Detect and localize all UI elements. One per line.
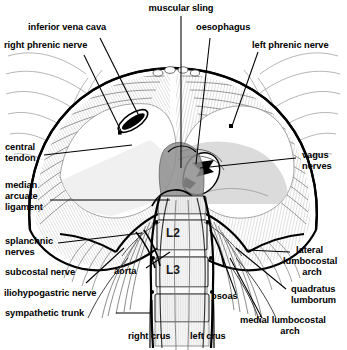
label-sympathetic-trunk: sympathetic trunk bbox=[5, 308, 84, 319]
label-iliohypogastric-nerve: iliohypogastric nerve bbox=[4, 288, 96, 299]
label-medial-lumbocostal-arch-line1: medial lumbocostal bbox=[240, 315, 326, 326]
label-central-tendon-line1: central bbox=[5, 142, 35, 153]
label-aorta: aorta bbox=[114, 266, 136, 277]
label-lateral-lumbocostal-arch-line2: lumbocostal bbox=[283, 256, 337, 267]
label-right-phrenic-nerve: right phrenic nerve bbox=[4, 40, 87, 51]
label-lateral-lumbocostal-arch-line1: lateral bbox=[296, 245, 323, 256]
label-psoas: psoas bbox=[211, 291, 238, 302]
label-splanchnic-nerves-line2: nerves bbox=[5, 247, 35, 258]
label-vertebra-l3: L3 bbox=[166, 263, 180, 277]
label-median-arcuate-ligament-line3: ligament bbox=[5, 202, 43, 213]
label-left-crus: left crus bbox=[190, 331, 226, 342]
label-right-crus: right crus bbox=[128, 331, 170, 342]
label-vertebra-l2: L2 bbox=[166, 226, 180, 240]
label-splanchnic-nerves-line1: splanchnic bbox=[5, 236, 53, 247]
label-median-arcuate-ligament-line2: arcuate bbox=[5, 191, 38, 202]
label-quadratus-lumborum-line1: quadratus bbox=[291, 284, 336, 295]
label-subcostal-nerve: subcostal nerve bbox=[5, 267, 75, 278]
label-left-phrenic-nerve: left phrenic nerve bbox=[252, 40, 329, 51]
label-oesophagus: oesophagus bbox=[196, 22, 250, 33]
anatomical-figure-diaphragm: inferior vena cava right phrenic nerve m… bbox=[0, 0, 347, 350]
label-inferior-vena-cava: inferior vena cava bbox=[28, 22, 106, 33]
label-lateral-lumbocostal-arch-line3: arch bbox=[283, 267, 341, 278]
label-median-arcuate-ligament-line1: median bbox=[5, 180, 37, 191]
label-muscular-sling: muscular sling bbox=[132, 3, 230, 14]
label-central-tendon-line2: tendon bbox=[5, 153, 36, 164]
label-quadratus-lumborum-line2: lumborum bbox=[291, 295, 336, 306]
label-medial-lumbocostal-arch-line2: arch bbox=[240, 326, 340, 337]
label-vagus-nerves-line2: nerves bbox=[302, 161, 332, 172]
label-vagus-nerves-line1: vagus bbox=[302, 150, 329, 161]
